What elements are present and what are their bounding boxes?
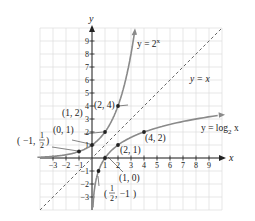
svg-text:6: 6 [168, 161, 172, 170]
chart: −3−2−1123456789−3−2−1123456789 x y y = 2… [0, 0, 255, 221]
data-point [103, 156, 107, 160]
svg-text:): ) [133, 189, 136, 200]
data-point [77, 150, 81, 154]
y-axis-label: y [88, 13, 94, 24]
x-axis-label: x [228, 152, 234, 163]
svg-text:2: 2 [85, 128, 89, 137]
svg-text:−3: −3 [80, 193, 89, 202]
y-axis-arrow-icon [89, 25, 95, 32]
svg-text:): ) [46, 136, 49, 147]
x-axis-arrow-icon [219, 155, 226, 161]
data-point [116, 104, 120, 108]
svg-text:1: 1 [110, 184, 114, 193]
point-label-2-1: (2, 1) [120, 145, 141, 156]
svg-text:(: ( [17, 136, 20, 147]
svg-text:8: 8 [85, 50, 89, 59]
svg-text:4: 4 [142, 161, 146, 170]
point-label-1-0: (1, 0) [119, 173, 140, 184]
svg-text:1: 1 [40, 131, 44, 140]
svg-text:9: 9 [85, 37, 89, 46]
svg-text:−1,: −1, [23, 136, 35, 146]
data-point [103, 130, 107, 134]
svg-text:−2: −2 [80, 180, 89, 189]
svg-text:8: 8 [194, 161, 198, 170]
point-label-1-2: (1, 2) [62, 108, 83, 119]
point-label-0-1: (0, 1) [53, 125, 74, 136]
log-curve-label: y = log2 x [201, 123, 239, 136]
svg-text:2: 2 [40, 141, 44, 150]
data-point [97, 169, 101, 173]
svg-text:7: 7 [181, 161, 185, 170]
svg-text:6: 6 [85, 76, 89, 85]
point-label-4-2: (4, 2) [145, 133, 166, 144]
svg-text:−3: −3 [49, 161, 58, 170]
svg-text:7: 7 [85, 63, 89, 72]
svg-text:−2: −2 [62, 161, 71, 170]
y-axis [89, 25, 95, 210]
exp-arrow-icon [132, 28, 137, 35]
identity-label: y = x [189, 74, 210, 84]
data-point [90, 143, 94, 147]
svg-text:2: 2 [110, 194, 114, 203]
svg-text:5: 5 [85, 89, 89, 98]
point-label-m1-half: ( −1, 1 2 ) [17, 131, 49, 150]
svg-text:−1: −1 [80, 167, 89, 176]
svg-text:, −1: , −1 [115, 189, 130, 199]
svg-text:9: 9 [207, 161, 211, 170]
point-label-2-4: (2, 4) [94, 100, 115, 111]
svg-text:5: 5 [155, 161, 159, 170]
svg-text:3: 3 [129, 161, 133, 170]
svg-text:(: ( [104, 189, 107, 200]
svg-text:4: 4 [85, 102, 89, 111]
svg-text:1: 1 [103, 161, 107, 170]
svg-text:3: 3 [85, 115, 89, 124]
